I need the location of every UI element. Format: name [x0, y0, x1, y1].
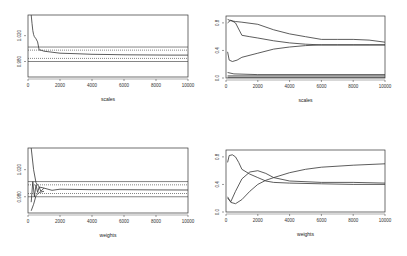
chart-bottom-right: 02000400060008000100000.80.40.0weights [215, 150, 392, 237]
plot-frame [28, 148, 188, 213]
chart-top-right: 02000400060008000100000.80.40.0scales [215, 16, 392, 103]
chart-top-left: 02000400060008000100001.0200.980scales [17, 15, 195, 102]
x-tick-label: 6000 [119, 219, 130, 224]
series-s2 [228, 171, 385, 202]
x-tick-label: 4000 [285, 218, 296, 223]
x-axis-label: scales [101, 96, 116, 102]
series-s4 [228, 73, 385, 75]
x-axis-label: weights [297, 231, 314, 237]
x-tick-label: 4000 [87, 219, 98, 224]
x-tick-label: 4000 [87, 83, 98, 88]
plot-area [28, 15, 188, 62]
x-tick-label: 10000 [182, 219, 195, 224]
y-tick-label: 0.8 [215, 19, 220, 26]
x-tick-label: 8000 [348, 218, 359, 223]
series-s1 [228, 19, 385, 42]
y-tick-label: 0.980 [17, 55, 22, 67]
x-tick-label: 2000 [55, 219, 66, 224]
y-tick-label: 0.980 [17, 191, 22, 203]
x-tick-label: 10000 [379, 218, 392, 223]
x-tick-label: 6000 [119, 83, 130, 88]
series-s3 [228, 45, 385, 62]
y-tick-label: 0.4 [215, 181, 220, 188]
x-tick-label: 0 [225, 84, 228, 89]
y-tick-label: 0.8 [215, 153, 220, 160]
x-tick-label: 8000 [151, 83, 162, 88]
x-tick-label: 0 [225, 218, 228, 223]
plot-frame [226, 150, 385, 212]
x-tick-label: 2000 [55, 83, 66, 88]
x-axis-label: weights [100, 232, 117, 238]
series-lower-bound [31, 191, 44, 211]
plot-frame [226, 16, 385, 78]
y-tick-label: 0.4 [215, 47, 220, 54]
x-axis-label: scales [298, 97, 313, 103]
x-tick-label: 6000 [316, 84, 327, 89]
figure-canvas: 02000400060008000100001.0200.980scales02… [0, 0, 407, 256]
x-tick-label: 10000 [379, 84, 392, 89]
series-s1 [228, 155, 385, 185]
plot-area [228, 19, 385, 77]
y-tick-label: 1.020 [17, 164, 22, 176]
x-tick-label: 0 [27, 83, 30, 88]
x-tick-label: 8000 [348, 84, 359, 89]
x-tick-label: 6000 [316, 218, 327, 223]
y-tick-label: 1.020 [17, 30, 22, 42]
plot-area [228, 155, 385, 204]
x-tick-label: 2000 [253, 84, 264, 89]
y-tick-label: 0.0 [215, 74, 220, 81]
x-tick-label: 4000 [285, 84, 296, 89]
y-tick-label: 0.0 [215, 208, 220, 215]
plot-area [28, 148, 188, 211]
figure: 02000400060008000100001.0200.980scales02… [0, 0, 407, 256]
x-tick-label: 2000 [253, 218, 264, 223]
x-tick-label: 0 [27, 219, 30, 224]
chart-bottom-left: 02000400060008000100001.0200.980weights [17, 148, 195, 238]
x-tick-label: 10000 [182, 83, 195, 88]
plot-frame [28, 15, 188, 77]
series-estimate [31, 15, 188, 55]
x-tick-label: 8000 [151, 219, 162, 224]
